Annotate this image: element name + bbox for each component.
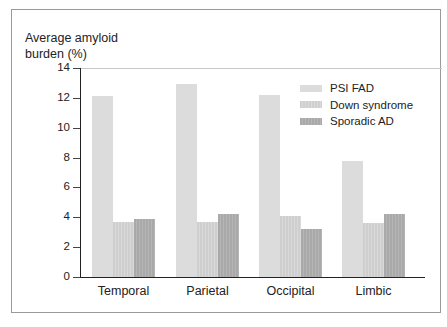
legend-item-down-syndrome: Down syndrome [300, 97, 413, 114]
y-tick-label: 12 [42, 91, 70, 103]
y-tick-label: 10 [42, 121, 70, 133]
y-tick-label: 2 [42, 240, 70, 252]
y-tick-mark [73, 128, 80, 129]
y-tick-mark [73, 187, 80, 188]
y-tick-label: 14 [42, 61, 70, 73]
legend-item-sporadic-ad: Sporadic AD [300, 113, 413, 130]
legend-label: Sporadic AD [330, 115, 394, 127]
y-tick-label: 4 [42, 210, 70, 222]
legend-swatch-psi-fad [300, 85, 322, 92]
x-category-label: Occipital [251, 284, 331, 298]
bar-occipital-psi-fad [259, 95, 280, 277]
y-tick-mark [73, 277, 80, 278]
bar-parietal-psi-fad [176, 84, 197, 277]
y-tick-mark [73, 158, 80, 159]
legend-label: Down syndrome [330, 99, 413, 111]
legend-item-psi-fad: PSI FAD [300, 80, 413, 97]
y-tick-label: 8 [42, 151, 70, 163]
legend-swatch-sporadic-ad [300, 118, 322, 125]
y-tick-mark [73, 247, 80, 248]
bar-limbic-sporadic-ad [384, 214, 405, 277]
y-tick-mark [73, 98, 80, 99]
bar-temporal-sporadic-ad [134, 219, 155, 277]
x-axis-line [80, 277, 425, 278]
bar-temporal-down-syndrome [113, 222, 134, 277]
bar-limbic-down-syndrome [363, 223, 384, 277]
y-tick-label: 6 [42, 180, 70, 192]
bar-parietal-sporadic-ad [218, 214, 239, 277]
y-tick-label: 0 [42, 270, 70, 282]
y-axis-line [80, 68, 81, 278]
bar-limbic-psi-fad [342, 161, 363, 277]
y-tick-mark [73, 68, 80, 69]
y-axis-title: Average amyloid burden (%) [25, 30, 118, 62]
legend-label: PSI FAD [330, 82, 374, 94]
bar-occipital-down-syndrome [280, 216, 301, 277]
legend-swatch-down-syndrome [300, 101, 322, 108]
y-axis-title-line-2: burden (%) [25, 46, 118, 62]
x-category-label: Parietal [168, 284, 248, 298]
bar-parietal-down-syndrome [197, 222, 218, 277]
bar-temporal-psi-fad [92, 96, 113, 277]
bar-occipital-sporadic-ad [301, 229, 322, 277]
y-axis-title-line-1: Average amyloid [25, 30, 118, 46]
x-category-label: Temporal [84, 284, 164, 298]
y-tick-mark [73, 217, 80, 218]
x-category-label: Limbic [334, 284, 414, 298]
legend: PSI FAD Down syndrome Sporadic AD [300, 80, 413, 130]
